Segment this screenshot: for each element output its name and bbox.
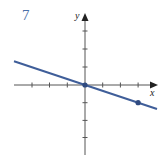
y-axis-arrow-icon — [82, 13, 89, 21]
point-3-neg1 — [136, 100, 141, 105]
x-axis-label: x — [150, 87, 154, 98]
point-origin — [82, 82, 87, 87]
coordinate-plane — [0, 0, 165, 157]
y-axis-label: y — [75, 10, 79, 21]
